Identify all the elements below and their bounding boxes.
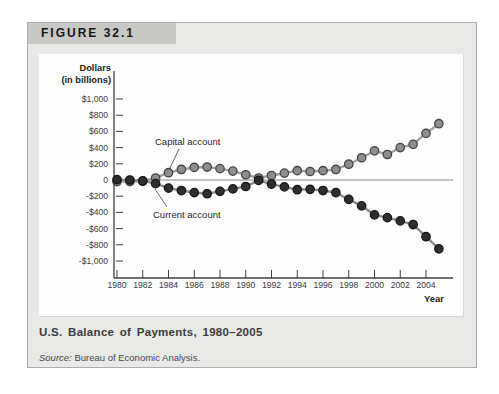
page: FIGURE 32.1 $1,000$800$600$400$2000-$200… xyxy=(0,0,499,394)
svg-text:1992: 1992 xyxy=(262,280,281,290)
figure-source-text: Bureau of Economic Analysis. xyxy=(74,352,200,363)
svg-text:-$200: -$200 xyxy=(86,191,108,201)
y-axis-title-line1: Dollars xyxy=(53,63,111,75)
figure-source: Source: Bureau of Economic Analysis. xyxy=(39,352,200,363)
x-axis-title: Year xyxy=(424,293,444,304)
svg-text:0: 0 xyxy=(103,175,108,185)
figure-source-label: Source: xyxy=(39,352,72,363)
svg-text:-$1,000: -$1,000 xyxy=(79,256,108,266)
figure-header-bar: FIGURE 32.1 xyxy=(28,23,176,44)
svg-text:1990: 1990 xyxy=(236,280,255,290)
balance-of-payments-chart: $1,000$800$600$400$2000-$200-$400-$600-$… xyxy=(39,54,463,316)
figure-label: FIGURE 32.1 xyxy=(28,23,176,44)
svg-text:1980: 1980 xyxy=(107,280,126,290)
y-axis-title: Dollars (in billions) xyxy=(53,63,111,86)
figure-title: U.S. Balance of Payments, 1980–2005 xyxy=(39,326,263,338)
svg-text:1996: 1996 xyxy=(313,280,332,290)
svg-text:-$400: -$400 xyxy=(86,207,108,217)
svg-text:1988: 1988 xyxy=(210,280,229,290)
svg-text:2002: 2002 xyxy=(391,280,410,290)
svg-text:2000: 2000 xyxy=(365,280,384,290)
svg-text:-$800: -$800 xyxy=(86,240,108,250)
svg-text:-$600: -$600 xyxy=(86,224,108,234)
chart-area: $1,000$800$600$400$2000-$200-$400-$600-$… xyxy=(39,54,464,317)
figure-panel: FIGURE 32.1 $1,000$800$600$400$2000-$200… xyxy=(27,22,477,368)
svg-text:1998: 1998 xyxy=(339,280,358,290)
svg-text:$600: $600 xyxy=(89,126,108,136)
svg-text:$200: $200 xyxy=(89,159,108,169)
capital-account-annotation: Capital account xyxy=(155,136,220,147)
y-axis-title-line2: (in billions) xyxy=(53,75,111,87)
svg-text:1982: 1982 xyxy=(133,280,152,290)
current-account-annotation: Current account xyxy=(153,209,221,220)
svg-text:1994: 1994 xyxy=(288,280,307,290)
svg-text:$1,000: $1,000 xyxy=(82,94,109,104)
svg-text:1986: 1986 xyxy=(185,280,204,290)
svg-text:$800: $800 xyxy=(89,110,108,120)
svg-text:2004: 2004 xyxy=(416,280,435,290)
svg-text:1984: 1984 xyxy=(159,280,178,290)
svg-text:$400: $400 xyxy=(89,143,108,153)
